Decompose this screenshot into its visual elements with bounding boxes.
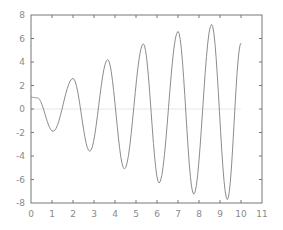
series-layer bbox=[31, 24, 241, 199]
x-tick-label: 2 bbox=[70, 209, 76, 219]
x-tick-label: 6 bbox=[154, 209, 160, 219]
y-tick-label: -2 bbox=[16, 128, 25, 138]
y-tick-label: 0 bbox=[19, 104, 25, 114]
x-tick-label: 7 bbox=[175, 209, 181, 219]
x-tick-label: 5 bbox=[133, 209, 139, 219]
y-tick-label: -8 bbox=[16, 198, 25, 208]
y-tick-label: 6 bbox=[19, 34, 25, 44]
x-tick-label: 9 bbox=[217, 209, 223, 219]
x-tick-label: 8 bbox=[196, 209, 202, 219]
x-axis: 01234567891011 bbox=[28, 15, 268, 219]
x-tick-label: 4 bbox=[112, 209, 118, 219]
x-tick-label: 1 bbox=[49, 209, 55, 219]
y-tick-label: -6 bbox=[16, 175, 25, 185]
y-tick-label: -4 bbox=[16, 151, 25, 161]
x-tick-label: 10 bbox=[235, 209, 247, 219]
y-tick-label: 2 bbox=[19, 81, 25, 91]
line-chart: 01234567891011 86420-2-4-6-8 bbox=[0, 0, 283, 230]
y-tick-label: 8 bbox=[19, 10, 25, 20]
x-tick-label: 0 bbox=[28, 209, 34, 219]
series-oscillation bbox=[31, 24, 241, 199]
x-tick-label: 11 bbox=[256, 209, 267, 219]
x-tick-label: 3 bbox=[91, 209, 97, 219]
y-tick-label: 4 bbox=[19, 57, 25, 67]
